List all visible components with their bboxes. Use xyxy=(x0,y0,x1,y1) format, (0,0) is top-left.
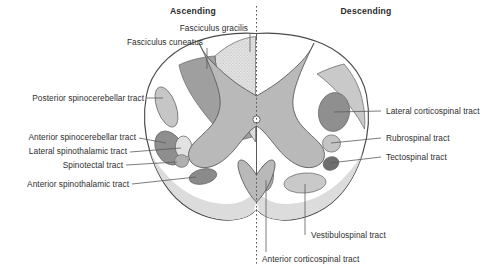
figure-canvas: Ascending Descending xyxy=(0,0,499,270)
region-rubrospinal-tract xyxy=(323,135,341,152)
label-posterior-spinocerebellar-tract: Posterior spinocerebellar tract xyxy=(32,93,144,103)
header-ascending: Ascending xyxy=(170,6,216,16)
label-fasciculus-gracilis: Fasciculus gracilis xyxy=(180,23,248,33)
label-tectospinal-tract: Tectospinal tract xyxy=(386,152,447,162)
region-spinotectal-tract xyxy=(175,155,189,168)
label-rubrospinal-tract: Rubrospinal tract xyxy=(386,133,450,143)
label-anterior-spinocerebellar-tract: Anterior spinocerebellar tract xyxy=(28,132,136,142)
label-anterior-corticospinal-tract: Anterior corticospinal tract xyxy=(262,254,360,264)
label-fasciculus-cuneatus: Fasciculus cuneatus xyxy=(127,37,203,47)
header-descending: Descending xyxy=(340,6,391,16)
label-spinotectal-tract: Spinotectal tract xyxy=(63,160,124,170)
label-anterior-spinothalamic-tract: Anterior spinothalamic tract xyxy=(27,179,130,189)
label-vestibulospinal-tract: Vestibulospinal tract xyxy=(311,230,386,240)
label-lateral-spinothalamic-tract: Lateral spinothalamic tract xyxy=(29,146,128,156)
spinal-cord-diagram: Ascending Descending xyxy=(0,0,499,270)
label-lateral-corticospinal-tract: Lateral corticospinal tract xyxy=(386,106,480,116)
